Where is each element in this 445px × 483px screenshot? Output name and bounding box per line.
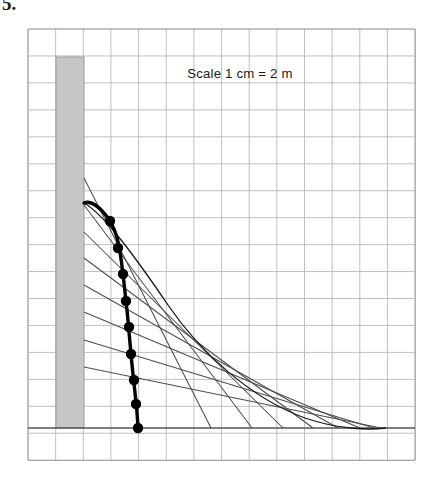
trajectory-ray xyxy=(84,205,252,428)
locus-point xyxy=(131,399,141,409)
locus-point xyxy=(118,269,128,279)
scale-annotation: Scale 1 cm = 2 m xyxy=(187,66,292,81)
locus-point xyxy=(113,243,123,253)
locus-point xyxy=(126,349,136,359)
locus-point xyxy=(129,375,139,385)
locus-point xyxy=(121,296,131,306)
wall-block xyxy=(56,57,84,428)
locus-point xyxy=(124,322,134,332)
trajectory-ray xyxy=(84,232,283,428)
locus-point xyxy=(133,423,143,433)
figure-container: 5. Scale 1 cm = 2 m xyxy=(0,0,445,483)
trajectory-ray xyxy=(84,178,211,428)
locus-point xyxy=(105,216,115,226)
physics-diagram: Scale 1 cm = 2 m xyxy=(0,0,445,483)
